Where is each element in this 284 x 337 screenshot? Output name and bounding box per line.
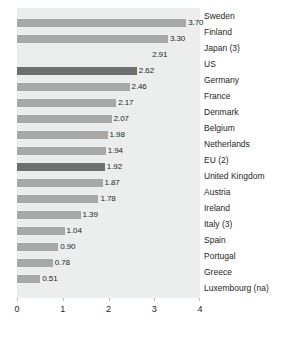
bar-value-label: 1.04: [67, 224, 82, 238]
bar-row: 2.46: [17, 80, 200, 96]
bar: [17, 195, 98, 203]
category-label: Austria: [204, 184, 230, 200]
category-label: France: [204, 88, 230, 104]
bar-value-label: 1.94: [108, 144, 123, 158]
bar-row: 0.90: [17, 240, 200, 256]
category-label: Denmark: [204, 104, 238, 120]
bar-value-label: 2.07: [114, 112, 129, 126]
bar-value-label: 2.46: [132, 80, 147, 94]
x-tick-label: 0: [14, 304, 19, 314]
category-label: Germany: [204, 72, 239, 88]
bar: [17, 147, 106, 155]
bar: [17, 99, 116, 107]
category-label: United Kingdom: [204, 168, 264, 184]
bar-value-label: 2.17: [118, 96, 133, 110]
category-label: Portugal: [204, 248, 236, 264]
x-tick-label: 1: [60, 304, 65, 314]
bar: [17, 115, 112, 123]
bar-value-label: 0.78: [55, 256, 70, 270]
category-label-column: SwedenFinlandJapan (3)USGermanyFranceDen…: [204, 8, 284, 298]
x-tick-label: 3: [152, 304, 157, 314]
bar-row: 1.39: [17, 208, 200, 224]
bar: [17, 35, 168, 43]
x-tick-mark: [109, 298, 110, 301]
bar-row: 1.78: [17, 192, 200, 208]
bar-value-label: 1.39: [83, 208, 98, 222]
bar: [17, 243, 58, 251]
category-label: Netherlands: [204, 136, 250, 152]
x-axis: 01234: [17, 298, 200, 320]
category-label: Japan (3): [204, 40, 240, 56]
bar-row: 2.91: [17, 48, 200, 64]
category-label: Sweden: [204, 8, 235, 24]
bar-row: 0.78: [17, 256, 200, 272]
bar-value-label: 3.30: [170, 32, 185, 46]
bar-row: 2.17: [17, 96, 200, 112]
x-tick-mark: [63, 298, 64, 301]
bar-row: 1.04: [17, 224, 200, 240]
bar-value-label: 3.70: [188, 16, 203, 30]
bar-row: 2.07: [17, 112, 200, 128]
bar-chart: 3.703.302.912.622.462.172.071.981.941.92…: [0, 0, 284, 337]
bar: [17, 211, 81, 219]
bar: [17, 131, 108, 139]
bar: [17, 227, 65, 235]
x-tick-mark: [154, 298, 155, 301]
bar: [17, 275, 40, 283]
bar-row: 1.87: [17, 176, 200, 192]
bar-value-label: 2.62: [139, 64, 154, 78]
bar-value-label: 0.51: [42, 272, 57, 286]
bar-value-label: 2.91: [152, 48, 167, 62]
bar-row: 3.70: [17, 16, 200, 32]
category-label: Finland: [204, 24, 232, 40]
category-label: Luxembourg (na): [204, 280, 269, 296]
x-tick-mark: [199, 298, 200, 301]
bar-value-label: 1.87: [105, 176, 120, 190]
bar-row: 1.94: [17, 144, 200, 160]
bar-value-label: 1.92: [107, 160, 122, 174]
category-label: Spain: [204, 232, 226, 248]
category-label: Ireland: [204, 200, 230, 216]
category-label: US: [204, 56, 216, 72]
category-label: Italy (3): [204, 216, 232, 232]
bar: [17, 67, 137, 75]
category-label: Belgium: [204, 120, 235, 136]
x-tick-label: 2: [106, 304, 111, 314]
bar: [17, 179, 103, 187]
bar-row: 1.98: [17, 128, 200, 144]
plot-area: 3.703.302.912.622.462.172.071.981.941.92…: [17, 8, 200, 298]
bar: [17, 163, 105, 171]
bar-value-label: 0.90: [60, 240, 75, 254]
category-label: Greece: [204, 264, 232, 280]
bar: [17, 83, 130, 91]
x-tick-label: 4: [197, 304, 202, 314]
bar-row: 1.92: [17, 160, 200, 176]
x-tick-mark: [17, 298, 18, 301]
bar: [17, 259, 53, 267]
bar-value-label: 1.98: [110, 128, 125, 142]
bar-row: 2.62: [17, 64, 200, 80]
category-label: EU (2): [204, 152, 229, 168]
bar: [17, 19, 186, 27]
bar-row: 0.51: [17, 272, 200, 288]
bar-value-label: 1.78: [100, 192, 115, 206]
bar-row: 3.30: [17, 32, 200, 48]
